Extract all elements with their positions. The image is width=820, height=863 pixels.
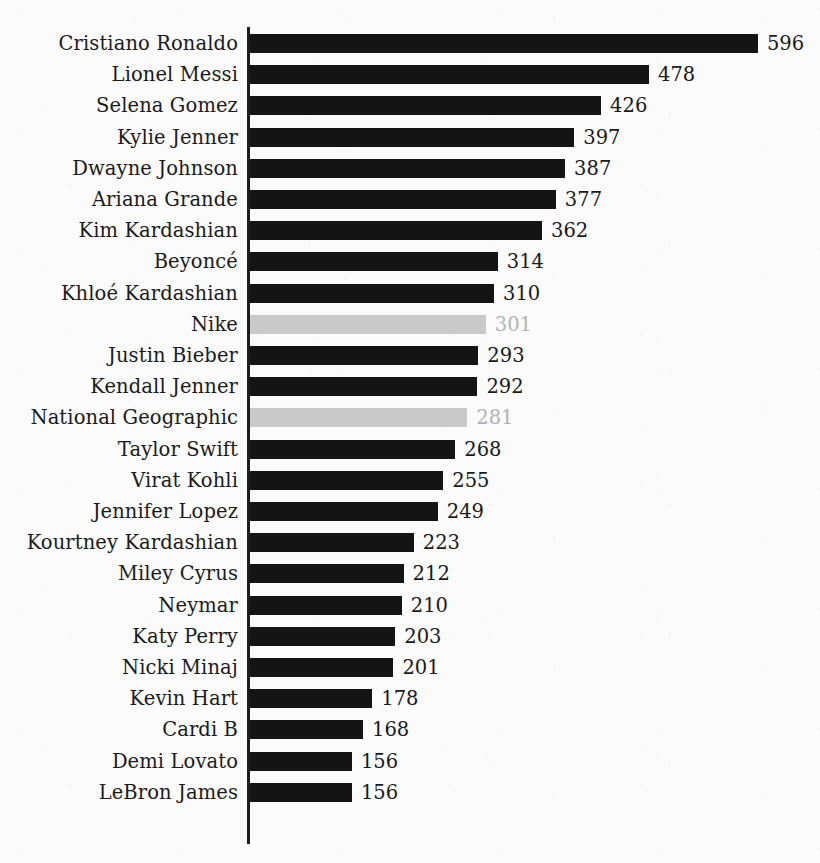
bar — [250, 627, 395, 646]
bar-row: Kylie Jenner397 — [0, 122, 820, 153]
bar-row: Selena Gomez426 — [0, 90, 820, 121]
bar-value-label: 223 — [423, 527, 460, 558]
bar-row: Cristiano Ronaldo596 — [0, 28, 820, 59]
category-label: Selena Gomez — [0, 90, 238, 121]
bar-value-label: 426 — [610, 90, 647, 121]
category-label: Nicki Minaj — [0, 652, 238, 683]
bar-row: Taylor Swift268 — [0, 434, 820, 465]
category-label: Kim Kardashian — [0, 215, 238, 246]
category-label: Lionel Messi — [0, 59, 238, 90]
bar-row: Jennifer Lopez249 — [0, 496, 820, 527]
category-label: Miley Cyrus — [0, 558, 238, 589]
bar — [250, 252, 498, 271]
bar-value-label: 281 — [476, 402, 513, 433]
bar — [250, 315, 486, 334]
bar-value-label: 156 — [361, 746, 398, 777]
category-label: Justin Bieber — [0, 340, 238, 371]
bar-row: Miley Cyrus212 — [0, 558, 820, 589]
bar-row: Kourtney Kardashian223 — [0, 527, 820, 558]
bar — [250, 720, 363, 739]
bar-value-label: 293 — [487, 340, 524, 371]
bar-value-label: 210 — [411, 590, 448, 621]
bar-row: Dwayne Johnson387 — [0, 153, 820, 184]
bar — [250, 658, 393, 677]
bar-value-label: 478 — [658, 59, 695, 90]
category-label: Khloé Kardashian — [0, 278, 238, 309]
bar-value-label: 156 — [361, 777, 398, 808]
category-label: Cristiano Ronaldo — [0, 28, 238, 59]
bar — [250, 752, 352, 771]
category-axis-line — [247, 27, 250, 844]
bar-row: Kendall Jenner292 — [0, 371, 820, 402]
bar — [250, 596, 402, 615]
bar — [250, 190, 556, 209]
bar-row: Khloé Kardashian310 — [0, 278, 820, 309]
bar-row: National Geographic281 — [0, 402, 820, 433]
category-label: Taylor Swift — [0, 434, 238, 465]
bar — [250, 471, 443, 490]
bar — [250, 34, 758, 53]
bar-value-label: 201 — [402, 652, 439, 683]
bar-value-label: 397 — [583, 122, 620, 153]
bar — [250, 408, 467, 427]
horizontal-bar-chart-plot: Cristiano Ronaldo596Lionel Messi478Selen… — [0, 0, 820, 863]
bar-row: Cardi B168 — [0, 714, 820, 745]
category-label: National Geographic — [0, 402, 238, 433]
bar — [250, 284, 494, 303]
bar — [250, 502, 438, 521]
bar — [250, 533, 414, 552]
bar-value-label: 203 — [404, 621, 441, 652]
category-label: Cardi B — [0, 714, 238, 745]
bar-row: Kevin Hart178 — [0, 683, 820, 714]
bar-row: Lionel Messi478 — [0, 59, 820, 90]
bar — [250, 440, 455, 459]
bar-value-label: 596 — [767, 28, 804, 59]
bar-row: Beyoncé314 — [0, 246, 820, 277]
bar-value-label: 268 — [464, 434, 501, 465]
bar-row: Kim Kardashian362 — [0, 215, 820, 246]
bar-row: Nike301 — [0, 309, 820, 340]
bar-value-label: 310 — [503, 278, 540, 309]
category-label: Virat Kohli — [0, 465, 238, 496]
bar — [250, 65, 649, 84]
category-label: Demi Lovato — [0, 746, 238, 777]
bar-row: LeBron James156 — [0, 777, 820, 808]
bar-value-label: 362 — [551, 215, 588, 246]
bar-row: Neymar210 — [0, 590, 820, 621]
bar-row: Demi Lovato156 — [0, 746, 820, 777]
bar — [250, 96, 601, 115]
bar-value-label: 387 — [574, 153, 611, 184]
bar — [250, 159, 565, 178]
category-label: Nike — [0, 309, 238, 340]
bar — [250, 783, 352, 802]
bar — [250, 689, 372, 708]
bar-value-label: 212 — [413, 558, 450, 589]
category-label: Katy Perry — [0, 621, 238, 652]
bar-row: Ariana Grande377 — [0, 184, 820, 215]
bar-row: Nicki Minaj201 — [0, 652, 820, 683]
bar-value-label: 178 — [381, 683, 418, 714]
category-label: LeBron James — [0, 777, 238, 808]
bar-row: Virat Kohli255 — [0, 465, 820, 496]
bar-row: Katy Perry203 — [0, 621, 820, 652]
bar — [250, 128, 574, 147]
category-label: Kevin Hart — [0, 683, 238, 714]
category-label: Kourtney Kardashian — [0, 527, 238, 558]
category-label: Beyoncé — [0, 246, 238, 277]
category-label: Jennifer Lopez — [0, 496, 238, 527]
category-label: Kendall Jenner — [0, 371, 238, 402]
bar-value-label: 255 — [452, 465, 489, 496]
bar-value-label: 377 — [565, 184, 602, 215]
category-label: Ariana Grande — [0, 184, 238, 215]
bar-value-label: 301 — [495, 309, 532, 340]
bar — [250, 221, 542, 240]
bar — [250, 346, 478, 365]
category-label: Dwayne Johnson — [0, 153, 238, 184]
bar-row: Justin Bieber293 — [0, 340, 820, 371]
chart-page: Cristiano Ronaldo596Lionel Messi478Selen… — [0, 0, 820, 863]
bar-value-label: 168 — [372, 714, 409, 745]
bar — [250, 377, 477, 396]
bar-value-label: 249 — [447, 496, 484, 527]
bar — [250, 564, 404, 583]
bar-value-label: 292 — [486, 371, 523, 402]
